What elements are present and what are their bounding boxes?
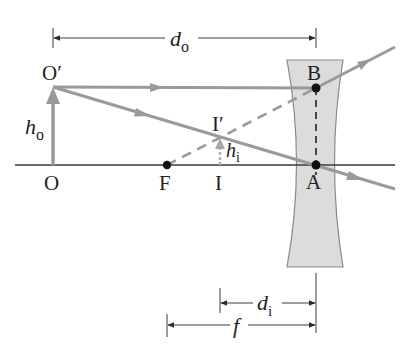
point-a-dot [312,161,321,170]
ray-parallel-incident [53,87,316,88]
object-height-label: ho [25,114,44,143]
diverging-lens-ray-diagram: do O′ O F I I′ B A ho hi di f [0,0,414,350]
ray-through-center [53,87,395,189]
label-object-tip: O′ [42,61,62,85]
image-distance-label: di [257,290,272,319]
label-image-base: I [215,171,222,195]
ray-arrowhead-icon [134,108,151,117]
ray-arrowhead-icon [346,171,364,180]
ray-arrowhead-icon [150,83,164,92]
ray-arrowhead-icon [357,59,371,70]
label-focal-point: F [159,171,171,195]
label-point-a: A [306,170,322,194]
label-image-tip: I′ [212,112,224,136]
label-point-b: B [307,61,321,85]
focal-length-label: f [233,313,242,338]
label-object-base: O [44,171,59,195]
object-distance-label: do [170,26,189,55]
focal-point-dot [163,161,171,169]
